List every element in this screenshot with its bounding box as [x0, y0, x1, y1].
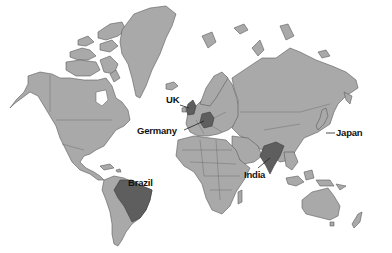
north-america [10, 72, 130, 180]
arctic-islands [66, 22, 126, 82]
iceland [166, 82, 178, 90]
label-india: India [244, 170, 265, 180]
label-uk: UK [166, 95, 179, 105]
australia [302, 188, 340, 220]
germany-highlight [200, 112, 214, 128]
label-brazil: Brazil [128, 178, 153, 188]
world-map [0, 0, 392, 253]
new-zealand [352, 212, 362, 228]
label-japan: Japan [336, 128, 362, 138]
label-germany: Germany [137, 126, 177, 136]
